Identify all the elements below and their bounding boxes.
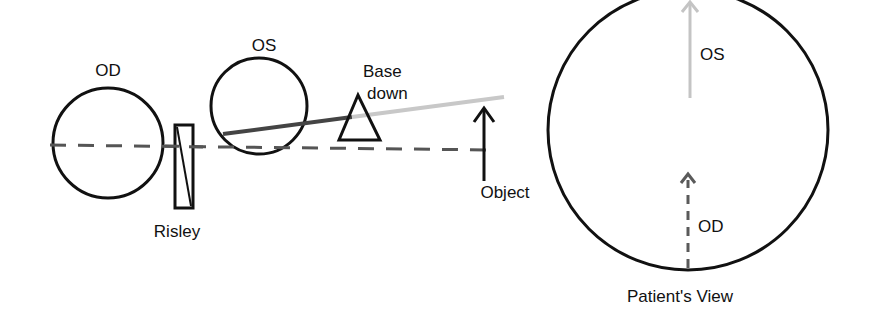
risley-label: Risley bbox=[154, 222, 201, 241]
view-os-label: OS bbox=[700, 45, 725, 64]
os-ray-before-prism bbox=[223, 117, 352, 134]
risley-prism-icon bbox=[165, 125, 203, 208]
od-line-of-sight bbox=[50, 145, 492, 150]
prism-label-down: down bbox=[367, 84, 408, 103]
object-arrow-icon bbox=[474, 108, 494, 181]
os-image-arrow-icon bbox=[682, 2, 698, 98]
os-eye bbox=[211, 58, 307, 154]
object-label: Object bbox=[480, 183, 529, 202]
prism-diagram: OD OS Risley Base down Object OS OD bbox=[0, 0, 871, 311]
prism-label-base: Base bbox=[363, 62, 402, 81]
os-eye-label: OS bbox=[252, 36, 277, 55]
view-od-label: OD bbox=[698, 217, 724, 236]
od-image-arrow-icon bbox=[681, 174, 695, 268]
od-eye bbox=[53, 88, 163, 198]
od-eye-label: OD bbox=[95, 61, 121, 80]
patients-view-label: Patient's View bbox=[627, 287, 734, 306]
